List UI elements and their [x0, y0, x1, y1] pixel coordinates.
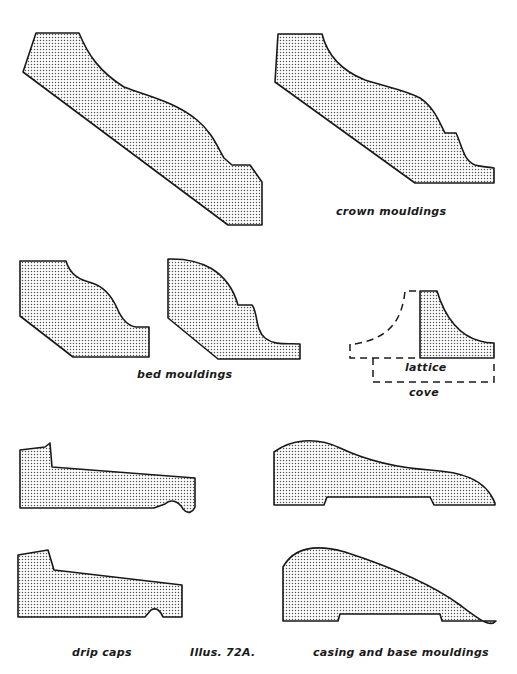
drip-cap-profile-2 [18, 550, 182, 617]
lattice-profile [420, 291, 494, 358]
crown-moulding-profile-1 [23, 33, 262, 225]
bed-moulding-profile-1 [20, 261, 149, 357]
illustration-caption: Illus. 72A. [190, 646, 256, 659]
casing-moulding-profile-2 [283, 548, 496, 624]
cove-label: cove [409, 386, 439, 399]
crown-moulding-profile-2 [275, 34, 494, 183]
bed-mouldings-label: bed mouldings [137, 368, 232, 381]
lattice-label: lattice [405, 361, 447, 374]
bed-moulding-profile-2 [168, 259, 300, 359]
casing-moulding-profile-1 [274, 441, 495, 505]
moulding-profiles-diagram [0, 0, 517, 674]
cove-profile-outline [350, 291, 420, 358]
casing-and-base-mouldings-label: casing and base mouldings [313, 646, 489, 659]
drip-cap-profile-1 [20, 443, 195, 512]
crown-mouldings-label: crown mouldings [336, 205, 446, 218]
drip-caps-label: drip caps [72, 646, 132, 659]
